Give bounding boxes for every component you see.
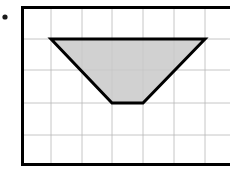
grid-figure-svg [0, 0, 230, 177]
bullet-point-icon [2, 14, 7, 19]
figure-container [0, 0, 230, 177]
